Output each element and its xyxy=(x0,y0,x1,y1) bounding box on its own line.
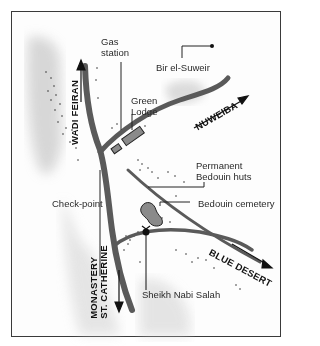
bir-el-suweir-marker xyxy=(210,44,214,48)
permanent-huts-label-line2: Bedouin huts xyxy=(196,171,251,182)
permanent-huts-label-line1: Permanent xyxy=(196,160,251,171)
green-lodge-label-line2: Lodge xyxy=(131,106,157,117)
monastery-st-catherine-label: MONASTERY ST. CATHERINE xyxy=(89,245,109,319)
bedouin-cemetery-shape xyxy=(141,203,163,227)
check-point-label: Check-point xyxy=(52,198,103,209)
monastery-label-line2: ST. CATHERINE xyxy=(99,245,109,319)
gas-station-label-line1: Gas xyxy=(101,36,129,47)
gas-station-label-line2: station xyxy=(101,47,129,58)
permanent-bedouin-huts-label: Permanent Bedouin huts xyxy=(196,160,251,182)
bedouin-cemetery-label: Bedouin cemetery xyxy=(198,198,275,209)
bir-el-suweir-label: Bir el-Suweir xyxy=(156,62,210,73)
green-lodge-label: Green Lodge xyxy=(131,95,157,117)
wadi-feiran-label: WADI FEIRAN xyxy=(69,80,80,145)
gas-station-label: Gas station xyxy=(101,36,129,58)
sheikh-nabi-salah-label: Sheikh Nabi Salah xyxy=(142,289,220,300)
green-lodge-label-line1: Green xyxy=(131,95,157,106)
